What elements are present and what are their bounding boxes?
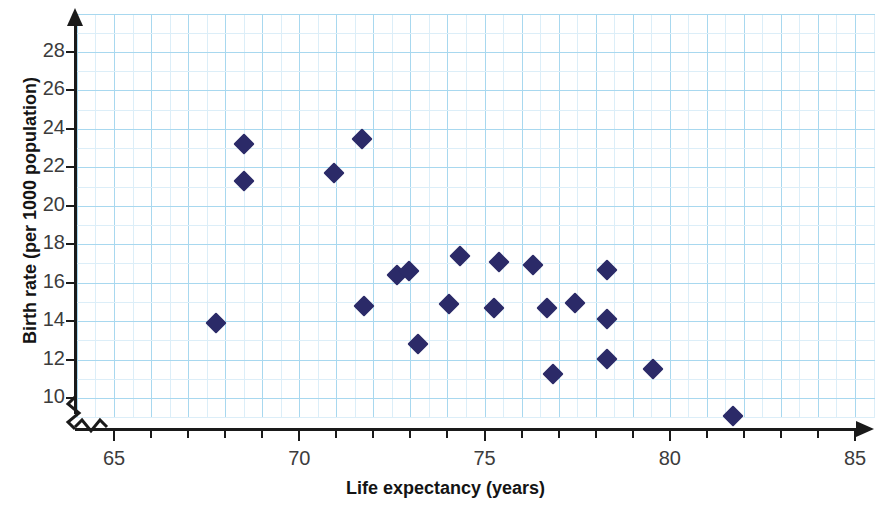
- scatter-point: [324, 163, 345, 184]
- scatter-point: [596, 309, 617, 330]
- scatter-point: [565, 292, 586, 313]
- scatter-point: [596, 260, 617, 281]
- scatter-point: [542, 363, 563, 384]
- scatter-point: [233, 170, 254, 191]
- y-axis-title: Birth rate (per 1000 population): [20, 1, 41, 421]
- scatter-point: [407, 334, 428, 355]
- scatter-point: [205, 312, 226, 333]
- x-axis-title: Life expectancy (years): [0, 478, 891, 499]
- scatter-point: [439, 293, 460, 314]
- scatter-point: [489, 251, 510, 272]
- scatter-point: [522, 255, 543, 276]
- scatter-point: [483, 297, 504, 318]
- scatter-point: [722, 406, 743, 427]
- scatter-point: [352, 128, 373, 149]
- scatter-points: [0, 0, 891, 514]
- scatter-point: [233, 134, 254, 155]
- scatter-point: [642, 359, 663, 380]
- scatter-chart: 10121416182022242628 6570758085 Life exp…: [0, 0, 891, 514]
- scatter-point: [537, 297, 558, 318]
- scatter-point: [450, 245, 471, 266]
- scatter-point: [596, 348, 617, 369]
- scatter-point: [353, 295, 374, 316]
